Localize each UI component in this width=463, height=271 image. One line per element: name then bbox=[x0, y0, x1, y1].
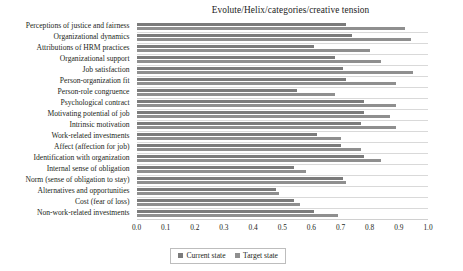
bar-group bbox=[137, 175, 429, 186]
chart-legend: Current stateTarget state bbox=[170, 248, 286, 264]
bar-group bbox=[137, 76, 429, 87]
bar-target-state bbox=[137, 38, 411, 42]
legend-label: Target state bbox=[243, 251, 278, 260]
bar-group bbox=[137, 21, 429, 32]
y-axis-tick-label: Internal sense of obligation bbox=[47, 165, 130, 173]
y-axis-tick-label: Psychological contract bbox=[61, 99, 130, 107]
bar-target-state bbox=[137, 49, 370, 53]
y-axis-tick-label: Job satisfaction bbox=[82, 66, 129, 74]
bar-group bbox=[137, 164, 429, 175]
bar-target-state bbox=[137, 115, 391, 119]
chart-page: Evolute/Helix/categories/creative tensio… bbox=[0, 0, 463, 271]
bar-target-state bbox=[137, 82, 396, 86]
chart-title: Evolute/Helix/categories/creative tensio… bbox=[0, 5, 463, 15]
bar-group bbox=[137, 54, 429, 65]
y-axis-tick-label: Organizational support bbox=[60, 55, 130, 63]
x-axis-tick-label: 0.1 bbox=[161, 223, 170, 232]
x-axis-tick-label: 0.3 bbox=[219, 223, 228, 232]
bar-target-state bbox=[137, 71, 414, 75]
bar-group bbox=[137, 153, 429, 164]
bar-target-state bbox=[137, 170, 306, 174]
y-axis-tick-label: Perceptions of justice and fairness bbox=[26, 22, 130, 30]
x-axis-tick-label: 0.4 bbox=[248, 223, 257, 232]
y-axis-tick-label: Identification with organization bbox=[33, 154, 129, 162]
bar-group bbox=[137, 43, 429, 54]
x-axis-tick-label: 0.5 bbox=[278, 223, 287, 232]
bar-group bbox=[137, 32, 429, 43]
y-axis-category-labels: Perceptions of justice and fairnessOrgan… bbox=[0, 21, 133, 219]
legend-item: Target state bbox=[235, 251, 278, 260]
y-axis-tick-label: Person-organization fit bbox=[60, 77, 130, 85]
bar-target-state bbox=[137, 203, 300, 207]
legend-item: Current state bbox=[178, 251, 226, 260]
y-axis-tick-label: Non-work-related investments bbox=[37, 209, 130, 217]
bar-group bbox=[137, 109, 429, 120]
x-axis: 0.00.10.20.30.40.50.60.70.80.91.0 bbox=[137, 219, 429, 235]
bar-group bbox=[137, 208, 429, 219]
bar-group bbox=[137, 65, 429, 76]
bar-target-state bbox=[137, 181, 347, 185]
y-axis-tick-label: Organizational dynamics bbox=[54, 33, 130, 41]
legend-swatch-icon bbox=[178, 253, 183, 258]
y-axis-tick-label: Affect (affection for job) bbox=[54, 143, 129, 151]
legend-label: Current state bbox=[187, 251, 226, 260]
x-axis-tick-label: 0.7 bbox=[336, 223, 345, 232]
bar-target-state bbox=[137, 27, 405, 31]
bar-group bbox=[137, 120, 429, 131]
x-axis-tick-label: 1.0 bbox=[423, 223, 432, 232]
bar-target-state bbox=[137, 104, 396, 108]
x-axis-tick-label: 0.0 bbox=[132, 223, 141, 232]
y-axis-tick-label: Person-role congruence bbox=[58, 88, 130, 96]
x-axis-tick-label: 0.8 bbox=[365, 223, 374, 232]
x-axis-line bbox=[137, 219, 429, 220]
y-axis-tick-label: Intrinsic motivation bbox=[69, 121, 129, 129]
x-axis-tick-label: 0.6 bbox=[307, 223, 316, 232]
bar-target-state bbox=[137, 93, 335, 97]
bar-target-state bbox=[137, 126, 396, 130]
y-axis-tick-label: Attributions of HRM practices bbox=[36, 44, 129, 52]
bar-group bbox=[137, 87, 429, 98]
x-axis-tick-label: 0.2 bbox=[190, 223, 199, 232]
bar-group bbox=[137, 131, 429, 142]
y-axis-tick-label: Cost (fear of loss) bbox=[75, 198, 130, 206]
bar-target-state bbox=[137, 159, 382, 163]
legend-swatch-icon bbox=[235, 253, 240, 258]
bar-group bbox=[137, 98, 429, 109]
x-axis-tick-label: 0.9 bbox=[394, 223, 403, 232]
bar-group bbox=[137, 197, 429, 208]
y-axis-tick-label: Motivating potential of job bbox=[47, 110, 129, 118]
bar-target-state bbox=[137, 214, 338, 218]
bar-target-state bbox=[137, 60, 382, 64]
y-axis-tick-label: Norm (sense of obligation to stay) bbox=[26, 176, 130, 184]
bar-target-state bbox=[137, 137, 341, 141]
bar-group bbox=[137, 142, 429, 153]
y-axis-tick-label: Work-related investments bbox=[51, 132, 129, 140]
bar-target-state bbox=[137, 192, 280, 196]
bar-group bbox=[137, 186, 429, 197]
y-axis-tick-label: Alternatives and opportunities bbox=[38, 187, 130, 195]
bar-target-state bbox=[137, 148, 361, 152]
plot-area bbox=[137, 21, 429, 219]
